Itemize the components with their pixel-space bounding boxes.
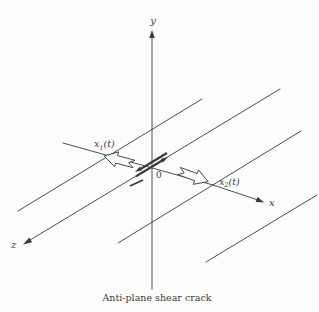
shear-arrow-upper-head-icon	[135, 167, 142, 173]
crack-tip-right-label-rest: (t)	[229, 176, 241, 187]
crack-plane-line-lower-right	[206, 195, 317, 262]
anti-plane-shear-crack-figure: y x z 0 x1(t) x2(t) Anti-plane shear cra…	[0, 0, 319, 312]
crack-tip-left-label-rest: (t)	[104, 138, 116, 149]
y-axis-label: y	[149, 15, 156, 26]
left-tip-block-arrow-icon	[102, 149, 136, 172]
diagram-strokes: y x z 0 x1(t) x2(t) Anti-plane shear cra…	[10, 15, 317, 303]
figure-caption: Anti-plane shear crack	[101, 292, 211, 303]
origin-label: 0	[156, 170, 162, 180]
crack-plane-line-through-right-tip	[118, 131, 301, 243]
diagram-canvas: y x z 0 x1(t) x2(t) Anti-plane shear cra…	[0, 0, 319, 312]
crack-face-dash	[130, 180, 143, 186]
z-axis-label: z	[10, 239, 17, 250]
x-axis-arrowhead-icon	[256, 197, 264, 203]
crack-tip-left-label: x1(t)	[94, 138, 115, 152]
crack-tip-right-label: x2(t)	[219, 176, 240, 190]
y-axis-arrowhead-icon	[149, 30, 155, 38]
z-axis-arrowhead-icon	[23, 238, 32, 245]
x-axis-label: x	[269, 197, 275, 208]
right-tip-block-arrow-icon	[176, 164, 210, 189]
